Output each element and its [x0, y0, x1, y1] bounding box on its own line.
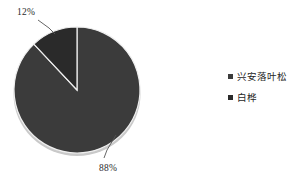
leader-line-12 — [38, 20, 55, 34]
legend-item-xinganluoyesong[interactable]: 兴安落叶松 — [228, 66, 300, 87]
legend-item-label: 兴安落叶松 — [237, 72, 287, 82]
legend-swatch-icon — [228, 74, 233, 79]
legend-swatch-icon — [228, 95, 233, 100]
plot-area: 12% 88% — [0, 0, 185, 183]
legend: 兴安落叶松 白桦 — [228, 66, 300, 108]
data-label-large-slice: 88% — [99, 163, 117, 173]
data-label-small-slice: 12% — [17, 7, 35, 17]
pie-chart-figure: 12% 88% 兴安落叶松 白桦 — [0, 0, 302, 183]
legend-item-label: 白桦 — [237, 93, 257, 103]
legend-item-baihua[interactable]: 白桦 — [228, 87, 300, 108]
pie-svg — [0, 0, 185, 183]
